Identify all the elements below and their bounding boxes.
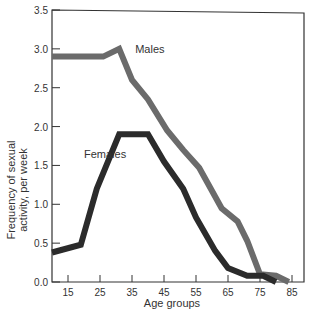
y-axis-label-line: activity, per week (17, 148, 29, 232)
y-tick-label: 1.0 (34, 199, 48, 210)
y-tick-label: 2.5 (34, 83, 48, 94)
y-tick-label: 3.0 (34, 44, 48, 55)
series-label-females: Females (84, 148, 127, 160)
x-tick-label: 15 (62, 287, 74, 298)
y-tick-label: 0.0 (34, 277, 48, 288)
series-label-males: Males (135, 43, 165, 55)
x-tick-label: 75 (254, 287, 266, 298)
y-axis-label-line: Frequency of sexual (5, 140, 17, 239)
x-tick-label: 25 (94, 287, 106, 298)
x-tick-label: 85 (286, 287, 298, 298)
line-chart: 0.00.51.01.52.02.53.03.5 152535455565758… (0, 0, 314, 314)
y-axis: 0.00.51.01.52.02.53.03.5 (34, 5, 60, 288)
x-tick-label: 35 (126, 287, 138, 298)
x-axis-label: Age groups (144, 297, 201, 309)
y-axis-label: Frequency of sexualactivity, per week (5, 140, 29, 239)
y-tick-label: 1.5 (34, 160, 48, 171)
series-lines (52, 49, 289, 282)
y-tick-label: 3.5 (34, 5, 48, 16)
y-tick-label: 2.0 (34, 122, 48, 133)
y-tick-label: 0.5 (34, 238, 48, 249)
x-tick-label: 65 (222, 287, 234, 298)
